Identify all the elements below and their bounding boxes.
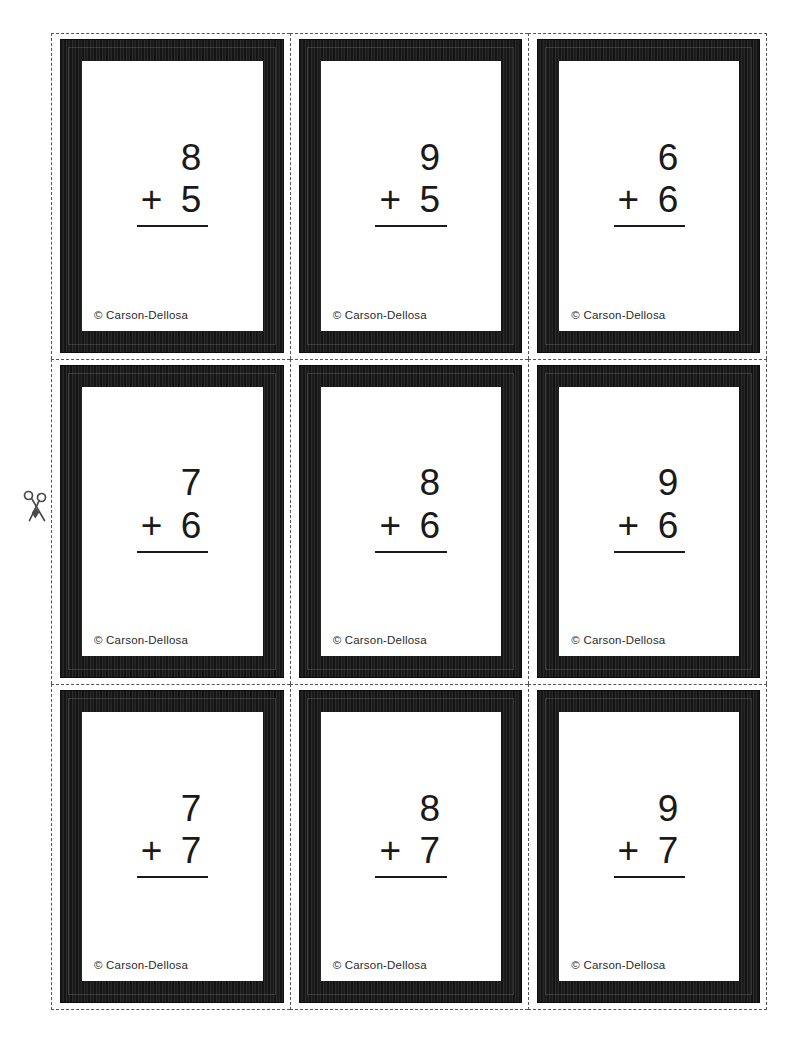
cut-cell: 8+6© Carson-Dellosa	[290, 359, 529, 685]
operator-and-bottom-operand: +6	[614, 179, 685, 227]
bottom-operand: 5	[181, 179, 202, 220]
bottom-operand: 5	[420, 179, 441, 220]
flash-card[interactable]: 8+7© Carson-Dellosa	[299, 690, 523, 1003]
bottom-operand: 6	[658, 179, 679, 220]
card-face: 9+7© Carson-Dellosa	[559, 712, 739, 981]
bottom-operand: 7	[420, 830, 441, 871]
cut-cell: 8+5© Carson-Dellosa	[51, 33, 290, 359]
bottom-operand: 6	[658, 505, 679, 546]
flash-card[interactable]: 9+6© Carson-Dellosa	[537, 365, 760, 679]
operator-and-bottom-operand: +6	[375, 505, 446, 553]
bottom-operand: 7	[181, 830, 202, 871]
bottom-operand: 6	[420, 505, 441, 546]
plus-operator: +	[618, 179, 640, 220]
plus-operator: +	[618, 830, 640, 871]
card-face: 8+7© Carson-Dellosa	[321, 712, 502, 981]
cut-cell: 9+6© Carson-Dellosa	[528, 359, 767, 685]
flash-card[interactable]: 6+6© Carson-Dellosa	[537, 39, 760, 353]
cut-cell: 8+7© Carson-Dellosa	[290, 684, 529, 1010]
addition-problem: 9+6	[559, 462, 739, 553]
plus-operator: +	[141, 179, 163, 220]
operator-and-bottom-operand: +7	[375, 830, 446, 878]
cut-cell: 7+6© Carson-Dellosa	[51, 359, 290, 685]
operator-and-bottom-operand: +7	[614, 830, 685, 878]
flash-card-cut-sheet: 8+5© Carson-Dellosa9+5© Carson-Dellosa6+…	[51, 33, 767, 1010]
addition-problem: 7+6	[82, 462, 263, 553]
plus-operator: +	[618, 505, 640, 546]
bottom-operand: 6	[181, 505, 202, 546]
top-operand: 9	[614, 788, 685, 831]
card-face: 7+7© Carson-Dellosa	[82, 712, 263, 981]
plus-operator: +	[141, 830, 163, 871]
flash-card[interactable]: 9+7© Carson-Dellosa	[537, 690, 760, 1003]
plus-operator: +	[379, 830, 401, 871]
flash-card[interactable]: 9+5© Carson-Dellosa	[299, 39, 523, 353]
top-operand: 8	[375, 462, 446, 505]
addition-problem: 8+7	[321, 788, 502, 879]
copyright-notice: © Carson-Dellosa	[94, 634, 188, 646]
plus-operator: +	[141, 505, 163, 546]
card-face: 9+6© Carson-Dellosa	[559, 387, 739, 657]
flash-card[interactable]: 8+6© Carson-Dellosa	[299, 365, 523, 679]
top-operand: 8	[137, 137, 208, 180]
card-face: 7+6© Carson-Dellosa	[82, 387, 263, 657]
addition-problem: 8+5	[82, 137, 263, 228]
operator-and-bottom-operand: +6	[137, 505, 208, 553]
addition-problem: 9+5	[321, 137, 502, 228]
copyright-notice: © Carson-Dellosa	[571, 959, 665, 971]
top-operand: 9	[614, 462, 685, 505]
plus-operator: +	[379, 505, 401, 546]
top-operand: 7	[137, 462, 208, 505]
copyright-notice: © Carson-Dellosa	[571, 309, 665, 321]
top-operand: 6	[614, 137, 685, 180]
flash-card[interactable]: 7+6© Carson-Dellosa	[60, 365, 284, 679]
copyright-notice: © Carson-Dellosa	[333, 959, 427, 971]
addition-problem: 7+7	[82, 788, 263, 879]
card-face: 6+6© Carson-Dellosa	[559, 61, 739, 331]
copyright-notice: © Carson-Dellosa	[94, 959, 188, 971]
plus-operator: +	[379, 179, 401, 220]
copyright-notice: © Carson-Dellosa	[333, 309, 427, 321]
operator-and-bottom-operand: +6	[614, 505, 685, 553]
card-face: 8+5© Carson-Dellosa	[82, 61, 263, 331]
flash-card[interactable]: 7+7© Carson-Dellosa	[60, 690, 284, 1003]
scissors-icon	[22, 487, 52, 529]
card-face: 9+5© Carson-Dellosa	[321, 61, 502, 331]
top-operand: 7	[137, 788, 208, 831]
addition-problem: 8+6	[321, 462, 502, 553]
top-operand: 8	[375, 788, 446, 831]
copyright-notice: © Carson-Dellosa	[571, 634, 665, 646]
cut-cell: 9+7© Carson-Dellosa	[528, 684, 767, 1010]
operator-and-bottom-operand: +5	[137, 179, 208, 227]
cut-cell: 9+5© Carson-Dellosa	[290, 33, 529, 359]
copyright-notice: © Carson-Dellosa	[94, 309, 188, 321]
bottom-operand: 7	[658, 830, 679, 871]
top-operand: 9	[375, 137, 446, 180]
cut-cell: 7+7© Carson-Dellosa	[51, 684, 290, 1010]
operator-and-bottom-operand: +7	[137, 830, 208, 878]
addition-problem: 6+6	[559, 137, 739, 228]
cut-cell: 6+6© Carson-Dellosa	[528, 33, 767, 359]
flash-card[interactable]: 8+5© Carson-Dellosa	[60, 39, 284, 353]
copyright-notice: © Carson-Dellosa	[333, 634, 427, 646]
card-face: 8+6© Carson-Dellosa	[321, 387, 502, 657]
operator-and-bottom-operand: +5	[375, 179, 446, 227]
addition-problem: 9+7	[559, 788, 739, 879]
